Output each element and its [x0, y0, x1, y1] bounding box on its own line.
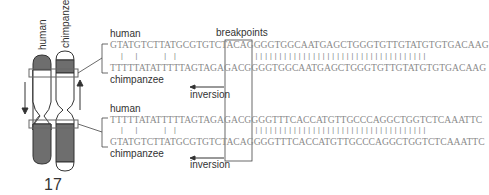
connector-line-top: [78, 58, 102, 73]
block1-bottom-species-label: chimpanzee: [110, 75, 164, 85]
inversion-arrow-chimpanzee: [77, 80, 83, 110]
block1-top-sequence: GTATGTCTTATGCGTGTCTACAGGGGTGGCAATGAGCTGG…: [110, 40, 489, 50]
block2-inversion-label: inversion: [190, 160, 230, 170]
block2-bottom-species-label: chimpanzee: [110, 149, 164, 159]
block2-match-bars: | | | | ||||||||||||||||||||||||||||||||…: [110, 126, 427, 134]
human-chromosome: [33, 55, 51, 164]
block2-top-species-label: human: [110, 104, 141, 114]
block1-top-species-label: human: [110, 29, 141, 39]
block1-match-bars: | | | | ||||||||||||||||||||||||||||||||…: [110, 52, 427, 60]
chimpanzee-chromosome-label: chimpanzee: [60, 0, 71, 48]
inversion-arrow-human: [22, 82, 28, 114]
human-chromosome-label: human: [37, 19, 48, 50]
chromosome-number: 17: [44, 176, 62, 194]
block1-bottom-sequence: TTTTTATATTTTTAGTAGAGACGGGGTGGCAATGAGCTGG…: [110, 63, 486, 73]
bracket-bottom: [102, 118, 108, 147]
block1-inversion-label: inversion: [190, 90, 230, 100]
connector-line-bottom: [78, 124, 102, 132]
block2-bottom-sequence: GTATGTCTTATGCGTGTCTACAGGGGTTTCACCATGTTGC…: [110, 137, 485, 147]
breakpoints-label: breakpoints: [216, 28, 268, 38]
block2-top-sequence: TTTTTATATTTTTAGTAGAGACGGGGTTTCACCATGTTGC…: [110, 115, 482, 125]
bracket-top: [102, 44, 108, 73]
